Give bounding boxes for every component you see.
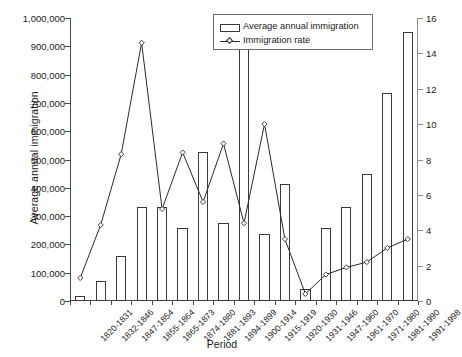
- right-tick-label: 12: [426, 85, 456, 95]
- x-tick: [295, 301, 296, 305]
- legend-line-label: Immigration rate: [243, 36, 310, 45]
- rate-marker: [119, 152, 124, 157]
- rate-marker: [282, 236, 287, 241]
- x-tick: [172, 301, 173, 305]
- x-tick: [152, 301, 153, 305]
- x-axis-title: Period: [0, 338, 444, 350]
- right-tick-label: 8: [426, 156, 456, 166]
- rate-marker: [200, 199, 205, 204]
- left-tick-label: 800,000: [0, 71, 65, 81]
- rate-marker: [180, 150, 185, 155]
- x-tick: [377, 301, 378, 305]
- rate-marker: [139, 40, 144, 45]
- x-tick: [131, 301, 132, 305]
- x-tick: [275, 301, 276, 305]
- right-tick-label: 14: [426, 49, 456, 59]
- line-series: [70, 18, 418, 301]
- rate-marker: [344, 265, 349, 270]
- left-tick-label: 400,000: [0, 184, 65, 194]
- right-tick: [418, 89, 423, 90]
- right-tick: [418, 230, 423, 231]
- right-tick: [418, 124, 423, 125]
- right-tick-label: 16: [426, 14, 456, 24]
- left-tick-label: 1,000,000: [0, 14, 65, 24]
- left-tick-label: 200,000: [0, 240, 65, 250]
- legend-bar-label: Average annual immigration: [243, 22, 359, 31]
- rate-marker: [262, 122, 267, 127]
- plot-area: 0100,000200,000300,000400,000500,000600,…: [70, 18, 418, 301]
- x-tick: [316, 301, 317, 305]
- x-tick: [254, 301, 255, 305]
- legend-diamond-marker-icon: [226, 37, 233, 44]
- right-tick-label: 4: [426, 226, 456, 236]
- x-tick: [111, 301, 112, 305]
- right-tick: [418, 160, 423, 161]
- left-tick-label: 700,000: [0, 99, 65, 109]
- x-tick: [70, 301, 71, 305]
- left-tick-label: 100,000: [0, 269, 65, 279]
- left-tick-label: 300,000: [0, 212, 65, 222]
- rate-marker: [98, 222, 103, 227]
- right-tick: [418, 53, 423, 54]
- rate-marker: [160, 206, 165, 211]
- left-tick-label: 0: [0, 297, 65, 307]
- rate-line: [80, 43, 408, 294]
- legend-bar-swatch-icon: [220, 24, 240, 32]
- x-tick: [90, 301, 91, 305]
- x-tick: [234, 301, 235, 305]
- rate-marker: [405, 236, 410, 241]
- left-tick-label: 600,000: [0, 127, 65, 137]
- x-tick: [336, 301, 337, 305]
- x-tick: [357, 301, 358, 305]
- x-tick: [418, 301, 419, 305]
- left-tick-label: 500,000: [0, 156, 65, 166]
- left-tick-label: 900,000: [0, 42, 65, 52]
- right-tick: [418, 18, 423, 19]
- x-tick: [193, 301, 194, 305]
- right-tick-label: 10: [426, 120, 456, 130]
- x-tick: [213, 301, 214, 305]
- right-tick-label: 0: [426, 297, 456, 307]
- right-tick: [418, 266, 423, 267]
- rate-marker: [221, 141, 226, 146]
- x-tick: [398, 301, 399, 305]
- right-tick-label: 6: [426, 191, 456, 201]
- chart-legend: Average annual immigration Immigration r…: [213, 14, 373, 50]
- rate-marker: [78, 275, 83, 280]
- right-tick-label: 2: [426, 262, 456, 272]
- rate-marker: [241, 221, 246, 226]
- right-tick: [418, 195, 423, 196]
